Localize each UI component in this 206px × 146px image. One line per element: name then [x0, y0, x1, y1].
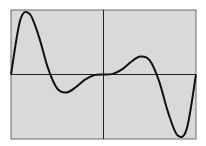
function-plot	[0, 0, 206, 146]
